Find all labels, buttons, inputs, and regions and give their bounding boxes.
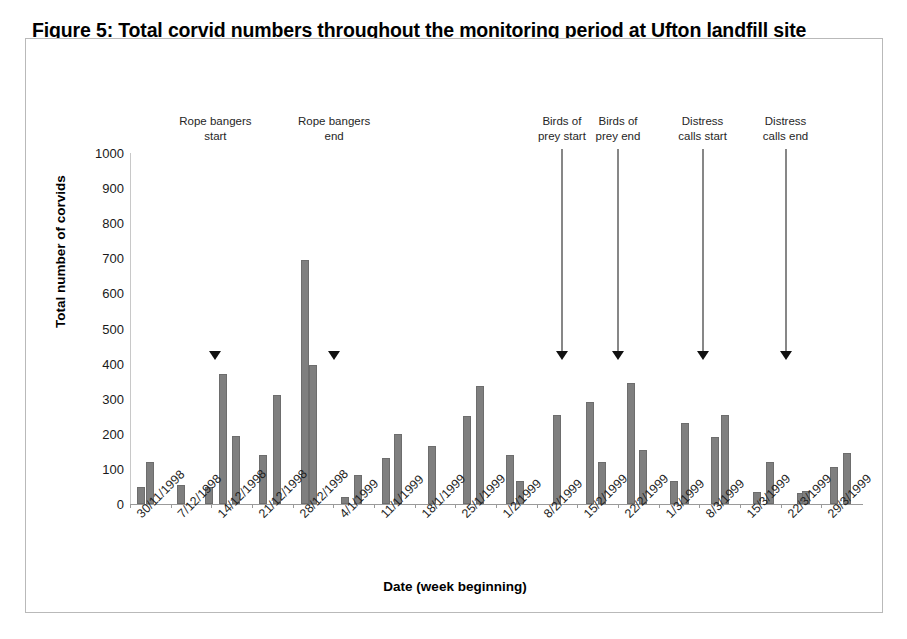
bar [382,458,390,504]
y-axis-tick-label: 500 [78,321,124,336]
annotation-triangle-icon [209,351,221,360]
x-axis-tick [537,504,538,508]
annotation-label: Distress calls end [743,114,829,143]
y-axis-tick-label: 0 [78,497,124,512]
arrow-head-icon [556,351,568,360]
arrow-shaft [702,149,703,351]
bar [586,402,594,504]
x-axis-tick [618,504,619,508]
x-axis-tick [821,504,822,508]
annotation-arrow [555,149,569,360]
y-axis-tick-label: 900 [78,181,124,196]
annotation-arrow [611,149,625,360]
x-axis-tick [293,504,294,508]
x-axis-tick [171,504,172,508]
bar [309,365,317,504]
x-axis-tick [740,504,741,508]
bar [627,383,635,504]
y-axis-tick-label: 600 [78,286,124,301]
plot-area [130,153,862,504]
y-axis-tick-label: 800 [78,216,124,231]
annotation-label: Distress calls start [660,114,746,143]
arrow-head-icon [697,351,709,360]
x-axis-tick [374,504,375,508]
x-axis-tick [130,504,131,508]
x-axis-title: Date (week beginning) [26,579,884,594]
arrow-head-icon [780,351,792,360]
x-axis-tick [333,504,334,508]
x-axis-tick [415,504,416,508]
figure-frame: Total number of corvids 1000900800700600… [25,38,883,613]
annotation-label: Birds of prey end [575,114,661,143]
annotation-arrow [696,149,710,360]
x-axis-tick [577,504,578,508]
bar [463,416,471,504]
y-axis-tick-label: 700 [78,251,124,266]
arrow-head-icon [612,351,624,360]
x-axis-tick [781,504,782,508]
bar [711,437,719,504]
y-axis-tick-labels: 10009008007006005004003002001000 [72,153,124,504]
arrow-shaft [618,149,619,351]
annotation-triangle-icon [328,351,340,360]
y-axis-tick-label: 300 [78,391,124,406]
annotation-label: Rope bangers end [291,114,377,143]
y-axis-tick-label: 200 [78,426,124,441]
x-axis-tick [699,504,700,508]
y-axis-tick-label: 100 [78,461,124,476]
y-axis-tick-label: 400 [78,356,124,371]
x-axis-tick [211,504,212,508]
x-axis-tick [496,504,497,508]
arrow-shaft [785,149,786,351]
y-axis-title: Total number of corvids [53,142,68,362]
x-axis-tick [659,504,660,508]
annotation-arrow [779,149,793,360]
y-axis-tick-label: 1000 [78,146,124,161]
arrow-shaft [561,149,562,351]
chart-plot-wrapper: Total number of corvids 1000900800700600… [26,39,884,614]
x-axis-tick [455,504,456,508]
x-axis-tick [252,504,253,508]
annotation-label: Rope bangers start [172,114,258,143]
